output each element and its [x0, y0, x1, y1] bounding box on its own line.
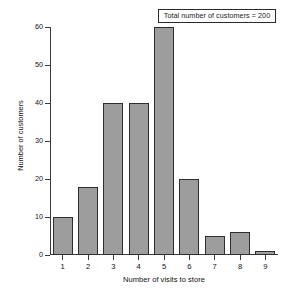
x-tick-7: 7 — [214, 255, 215, 260]
x-tick-label-9: 9 — [257, 262, 274, 272]
y-axis-line — [50, 27, 51, 255]
x-tick-3: 3 — [113, 255, 114, 260]
x-tick-6: 6 — [189, 255, 190, 260]
bar-2 — [78, 187, 98, 255]
y-tick-30: 30 — [45, 141, 50, 142]
y-tick-0: 0 — [45, 255, 50, 256]
x-tick-label-2: 2 — [80, 262, 97, 272]
x-tick-4: 4 — [138, 255, 139, 260]
y-tick-label-0: 0 — [39, 250, 43, 259]
bar-6 — [179, 179, 199, 255]
y-tick-label-30: 30 — [35, 136, 43, 145]
histogram-figure: Total number of customers = 200 Number o… — [0, 0, 283, 298]
x-tick-9: 9 — [265, 255, 266, 260]
y-tick-label-50: 50 — [35, 60, 43, 69]
plot-area: 0102030405060 123456789 — [50, 27, 278, 255]
total-customers-annotation-text: Total number of customers = 200 — [164, 12, 270, 20]
y-tick-50: 50 — [45, 65, 50, 66]
y-tick-label-40: 40 — [35, 98, 43, 107]
y-tick-label-20: 20 — [35, 174, 43, 183]
y-axis-title: Number of customers — [16, 71, 25, 201]
x-tick-label-8: 8 — [232, 262, 249, 272]
y-tick-10: 10 — [45, 217, 50, 218]
bar-4 — [129, 103, 149, 255]
bar-1 — [53, 217, 73, 255]
y-tick-20: 20 — [45, 179, 50, 180]
y-tick-label-10: 10 — [35, 212, 43, 221]
x-tick-label-7: 7 — [206, 262, 223, 272]
x-tick-label-5: 5 — [156, 262, 173, 272]
y-tick-label-60: 60 — [35, 22, 43, 31]
x-tick-label-3: 3 — [105, 262, 122, 272]
x-axis-title: Number of visits to store — [50, 275, 278, 284]
x-tick-label-1: 1 — [54, 262, 71, 272]
y-tick-40: 40 — [45, 103, 50, 104]
x-tick-8: 8 — [240, 255, 241, 260]
bar-8 — [230, 232, 250, 255]
x-tick-label-4: 4 — [130, 262, 147, 272]
x-tick-label-6: 6 — [181, 262, 198, 272]
x-tick-2: 2 — [88, 255, 89, 260]
y-tick-60: 60 — [45, 27, 50, 28]
total-customers-annotation-box: Total number of customers = 200 — [158, 9, 276, 23]
bar-3 — [103, 103, 123, 255]
x-tick-5: 5 — [164, 255, 165, 260]
bar-5 — [154, 27, 174, 255]
bar-7 — [205, 236, 225, 255]
bar-9 — [255, 251, 275, 255]
x-tick-1: 1 — [62, 255, 63, 260]
